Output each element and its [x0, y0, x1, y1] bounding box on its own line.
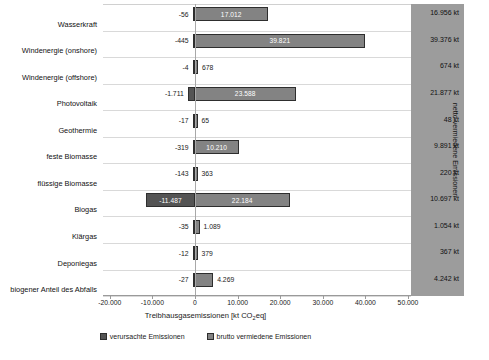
category-label: Windenergie (offshore)	[22, 73, 97, 82]
bar-value-label: 363	[202, 170, 213, 177]
legend-item-gross-avoided-emissions: brutto vermiedene Emissionen	[207, 333, 312, 340]
bar-value-label: 22.184	[232, 197, 253, 204]
bar-value-label: 65	[202, 117, 210, 124]
bar-value-label: -17	[179, 117, 189, 124]
bar-value-label: 678	[202, 64, 213, 71]
bar-gross-avoided-emissions: 10.210	[195, 140, 239, 154]
bar-value-label: 4.269	[217, 276, 234, 283]
gridline	[103, 243, 411, 244]
bar-value-label: -445	[175, 37, 189, 44]
category-axis-labels: WasserkraftWindenergie (onshore)Windener…	[0, 4, 101, 296]
bar-value-label: -56	[179, 11, 189, 18]
bar-value-label: -35	[179, 223, 189, 230]
bar-gross-avoided-emissions: 23.588	[195, 87, 296, 101]
x-axis-title-tail: eq]	[256, 311, 267, 320]
plot-area: -5617.012-44539.821-4678-1.71123.588-176…	[103, 4, 411, 296]
gridline	[103, 216, 411, 217]
legend-label: brutto vermiedene Emissionen	[217, 333, 312, 340]
x-tick-label: 50.000	[398, 299, 419, 306]
gridline	[103, 190, 411, 191]
x-tick-mark	[238, 296, 239, 299]
x-tick-mark	[365, 296, 366, 299]
legend-swatch-icon	[207, 333, 214, 340]
bar-caused-emissions: -11.487	[146, 193, 195, 207]
category-label: Wasserkraft	[58, 20, 97, 29]
category-label: Biogas	[74, 205, 97, 214]
x-tick-label: 20.000	[270, 299, 291, 306]
x-tick-label: -20.000	[98, 299, 121, 306]
bar-value-label: 17.012	[221, 11, 242, 18]
zero-axis-line	[195, 4, 196, 296]
x-tick-label: -10.000	[141, 299, 164, 306]
legend-item-caused-emissions: verursachte Emissionen	[100, 333, 185, 340]
x-tick-mark	[323, 296, 324, 299]
x-tick-label: 40.000	[355, 299, 376, 306]
x-axis-title: Treibhausgasemissionen [kt CO2eq]	[0, 311, 411, 320]
bar-gross-avoided-emissions: 22.184	[195, 193, 290, 207]
bar-value-label: 39.821	[269, 37, 290, 44]
x-tick-label: 0	[193, 299, 197, 306]
plot-top-border	[103, 4, 411, 5]
gridline	[103, 137, 411, 138]
bar-value-label: -27	[179, 276, 189, 283]
gridline	[103, 163, 411, 164]
bar-value-label: 379	[202, 250, 213, 257]
bar-value-label: -11.487	[159, 197, 182, 204]
x-tick-mark	[152, 296, 153, 299]
chart-container: WasserkraftWindenergie (onshore)Windener…	[0, 0, 489, 360]
category-label: Windenergie (onshore)	[22, 46, 97, 55]
x-axis-title-subscript: 2	[253, 315, 256, 321]
gridline	[103, 57, 411, 58]
net-column-title: netto vermiedene Emissionen	[449, 4, 463, 296]
category-label: biogener Anteil des Abfalls	[10, 285, 97, 294]
legend-swatch-icon	[100, 333, 107, 340]
bar-gross-avoided-emissions: 39.821	[195, 34, 365, 48]
bar-gross-avoided-emissions	[195, 273, 213, 287]
category-label: feste Biomasse	[46, 152, 97, 161]
chart-legend: verursachte Emissionen brutto vermiedene…	[0, 333, 411, 340]
category-label: Geothermie	[58, 126, 97, 135]
category-label: Photovoltaik	[57, 99, 97, 108]
category-label: Deponiegas	[58, 259, 97, 268]
bar-value-label: -4	[182, 64, 188, 71]
bar-value-label: -12	[179, 250, 189, 257]
x-tick-label: 10.000	[227, 299, 248, 306]
gridline	[103, 84, 411, 85]
x-tick-mark	[195, 296, 196, 299]
x-tick-mark	[110, 296, 111, 299]
bar-caused-emissions	[188, 87, 195, 101]
category-label: flüssige Biomasse	[37, 179, 97, 188]
x-tick-mark	[280, 296, 281, 299]
gridline	[103, 31, 411, 32]
gridline	[103, 110, 411, 111]
x-axis-title-text: Treibhausgasemissionen [kt CO	[145, 311, 253, 320]
gridline	[103, 270, 411, 271]
x-tick-label: 30.000	[312, 299, 333, 306]
bar-value-label: -319	[175, 144, 189, 151]
category-label: Klärgas	[72, 232, 97, 241]
bar-value-label: 23.588	[235, 90, 256, 97]
bar-gross-avoided-emissions: 17.012	[195, 7, 268, 21]
bar-value-label: 10.210	[206, 144, 227, 151]
bar-value-label: -1.711	[165, 90, 184, 97]
x-axis-tick-labels: -20.000-10.000010.00020.00030.00040.0005…	[0, 299, 489, 311]
legend-label: verursachte Emissionen	[110, 333, 185, 340]
x-tick-mark	[408, 296, 409, 299]
bar-value-label: -143	[175, 170, 189, 177]
bar-value-label: 1.089	[204, 223, 221, 230]
